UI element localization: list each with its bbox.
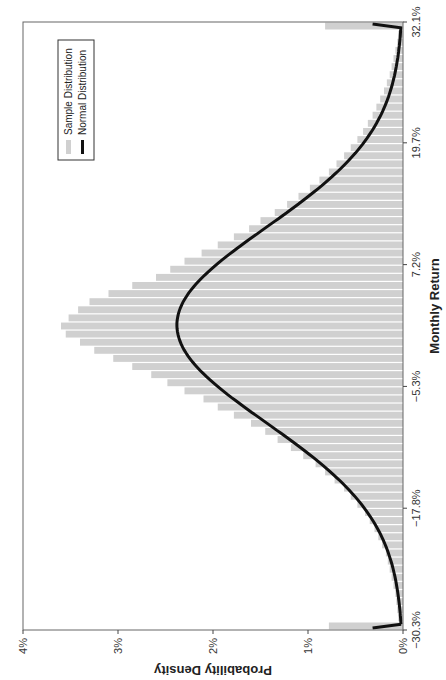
- histogram-bar: [376, 104, 403, 111]
- histogram-bar: [299, 193, 404, 200]
- x-tick-label: −17.8%: [410, 489, 422, 527]
- histogram-bar: [387, 79, 403, 86]
- histogram-bar: [287, 201, 403, 208]
- histogram-bar: [61, 323, 403, 330]
- histogram-bar: [151, 371, 403, 378]
- histogram-bar: [185, 387, 404, 394]
- histogram-bar: [156, 274, 403, 281]
- histogram-bar: [132, 363, 403, 370]
- x-tick-label: −30.3%: [410, 611, 422, 649]
- x-axis-ticks: −30.3%−17.8%−5.3%7.2%19.7%32.1%: [403, 6, 422, 649]
- histogram-bar: [373, 112, 403, 119]
- histogram-bar: [261, 217, 404, 224]
- y-tick-label: 4%: [17, 638, 29, 654]
- histogram-bar: [109, 290, 404, 297]
- histogram-bar: [78, 306, 403, 313]
- chart-legend: Sample Distribution Normal Distribution: [58, 40, 94, 160]
- histogram-bar: [90, 298, 404, 305]
- x-tick-label: 19.7%: [410, 127, 422, 158]
- histogram-bar: [132, 282, 403, 289]
- histogram-bar: [170, 266, 403, 273]
- histogram-bar: [291, 444, 403, 451]
- legend-label-sample: Sample Distribution: [63, 48, 74, 135]
- legend-swatch-normal: [81, 140, 84, 154]
- histogram-bar: [344, 485, 403, 492]
- histogram-bar: [275, 209, 403, 216]
- histogram-bar: [316, 460, 403, 467]
- histogram-bar: [113, 355, 403, 362]
- legend-label-normal: Normal Distribution: [77, 50, 88, 135]
- histogram-bar: [265, 428, 403, 435]
- histogram-bar: [94, 347, 403, 354]
- x-tick-label: 7.2%: [410, 252, 422, 277]
- histogram-bar: [69, 314, 403, 321]
- histogram-bar: [380, 96, 403, 103]
- histogram-bar: [303, 452, 403, 459]
- x-axis-label: Monthly Return: [427, 258, 442, 353]
- histogram-bar: [335, 477, 403, 484]
- histogram-bar: [249, 225, 403, 232]
- legend-swatch-sample: [66, 140, 71, 154]
- sample-distribution-bars: [61, 23, 403, 630]
- y-axis-label: Probability Density: [153, 663, 272, 678]
- y-tick-label: 3%: [112, 638, 124, 654]
- y-tick-label: 2%: [207, 638, 219, 654]
- histogram-bar: [384, 87, 403, 94]
- histogram-bar: [325, 468, 403, 475]
- histogram-bar: [80, 339, 403, 346]
- y-tick-label: 0%: [397, 638, 409, 654]
- chart-stage: −30.3%−17.8%−5.3%7.2%19.7%32.1% 0%1%2%3%…: [0, 0, 446, 680]
- x-tick-label: 32.1%: [410, 6, 422, 37]
- x-tick-label: −5.3%: [410, 370, 422, 402]
- y-tick-label: 1%: [302, 638, 314, 654]
- histogram-chart: −30.3%−17.8%−5.3%7.2%19.7%32.1% 0%1%2%3%…: [0, 0, 446, 680]
- y-axis-ticks: 0%1%2%3%4%: [17, 630, 409, 654]
- histogram-bar: [251, 420, 403, 427]
- histogram-bar: [66, 331, 403, 338]
- histogram-bar: [167, 379, 403, 386]
- histogram-bar: [234, 233, 403, 240]
- histogram-bar: [278, 436, 403, 443]
- histogram-bar: [368, 120, 403, 127]
